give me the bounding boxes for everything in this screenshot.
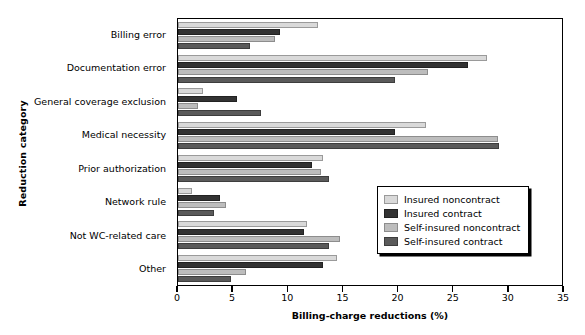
bar (178, 69, 428, 75)
legend-item: Insured contract (384, 206, 520, 220)
legend-item: Self-insured contract (384, 234, 520, 248)
y-axis-label-text: Not WC-related care (70, 231, 166, 241)
y-axis-label-5: Network rule (0, 186, 172, 220)
y-axis-label-text: Other (139, 264, 166, 274)
y-axis-label-7: Other (0, 253, 172, 287)
x-tick-label: 30 (502, 292, 514, 303)
bar (178, 262, 323, 268)
bar (178, 29, 280, 35)
x-tick-label: 0 (174, 292, 180, 303)
legend-label: Self-insured contract (404, 236, 502, 247)
bar (178, 36, 275, 42)
bar (178, 155, 323, 161)
bar (178, 88, 203, 94)
x-axis-title: Billing-charge reductions (%) (177, 310, 563, 321)
y-axis-label-1: Documentation error (0, 52, 172, 86)
bar-group (178, 86, 562, 119)
bar-group (178, 19, 562, 52)
y-axis-label-text: Medical necessity (82, 130, 166, 140)
bar (178, 188, 192, 194)
x-tick-label: 25 (447, 292, 459, 303)
bar (178, 162, 312, 168)
bar (178, 195, 220, 201)
legend-label: Self-insured noncontract (404, 222, 520, 233)
y-axis-category-labels: Billing errorDocumentation errorGeneral … (0, 18, 172, 286)
legend-label: Insured noncontract (404, 194, 500, 205)
legend-swatch-icon (384, 209, 398, 218)
bar (178, 236, 340, 242)
bar (178, 136, 498, 142)
bar (178, 269, 246, 275)
legend-swatch-icon (384, 223, 398, 232)
x-tick-label: 15 (336, 292, 348, 303)
x-tick-label: 5 (229, 292, 235, 303)
bar (178, 176, 329, 182)
chart-legend: Insured noncontractInsured contractSelf-… (377, 186, 529, 254)
legend-item: Self-insured noncontract (384, 220, 520, 234)
legend-item: Insured noncontract (384, 192, 520, 206)
bar (178, 202, 226, 208)
bar (178, 96, 237, 102)
x-tick-label: 35 (557, 292, 569, 303)
bar (178, 221, 307, 227)
bar (178, 143, 499, 149)
y-axis-label-text: General coverage exclusion (34, 97, 166, 107)
x-axis-tick-labels: 05101520253035 (177, 292, 563, 306)
x-tick-label: 20 (392, 292, 404, 303)
y-axis-label-text: Network rule (105, 197, 166, 207)
bar-group (178, 119, 562, 152)
legend-label: Insured contract (404, 208, 482, 219)
bar (178, 169, 321, 175)
bar (178, 62, 468, 68)
bar (178, 210, 214, 216)
bar (178, 122, 426, 128)
y-axis-label-0: Billing error (0, 18, 172, 52)
y-axis-label-text: Documentation error (67, 63, 166, 73)
legend-swatch-icon (384, 237, 398, 246)
x-tick-label: 10 (281, 292, 293, 303)
bar (178, 43, 250, 49)
bar-group (178, 52, 562, 85)
bar (178, 55, 487, 61)
y-axis-label-6: Not WC-related care (0, 219, 172, 253)
bar (178, 255, 337, 261)
bar (178, 22, 318, 28)
y-axis-label-3: Medical necessity (0, 119, 172, 153)
bar (178, 229, 304, 235)
bar (178, 243, 329, 249)
y-axis-label-4: Prior authorization (0, 152, 172, 186)
bar (178, 276, 231, 282)
y-axis-label-2: General coverage exclusion (0, 85, 172, 119)
bar (178, 110, 261, 116)
legend-swatch-icon (384, 195, 398, 204)
bar (178, 77, 395, 83)
bar-group (178, 252, 562, 285)
y-axis-label-text: Prior authorization (78, 164, 166, 174)
bar-chart-figure: Reduction category Billing errorDocument… (0, 0, 585, 335)
bar-group (178, 152, 562, 185)
bar (178, 103, 198, 109)
y-axis-label-text: Billing error (111, 30, 166, 40)
bar (178, 129, 395, 135)
